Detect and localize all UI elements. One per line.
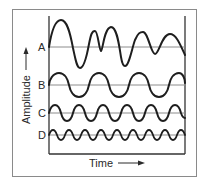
wave-label-c: C	[38, 107, 46, 119]
wave-label-d: D	[38, 129, 46, 141]
x-axis-title: Time	[89, 157, 113, 169]
arrow-up-icon	[24, 47, 29, 70]
wave-a	[49, 20, 185, 68]
wave-label-a: A	[38, 41, 46, 53]
arrow-right-icon	[118, 161, 145, 166]
y-axis-title: Amplitude	[20, 75, 32, 124]
diagram-canvas: A B C D Amplitude Time	[0, 0, 207, 183]
waveform-diagram: A B C D Amplitude Time	[0, 0, 207, 183]
wave-label-b: B	[38, 79, 45, 91]
